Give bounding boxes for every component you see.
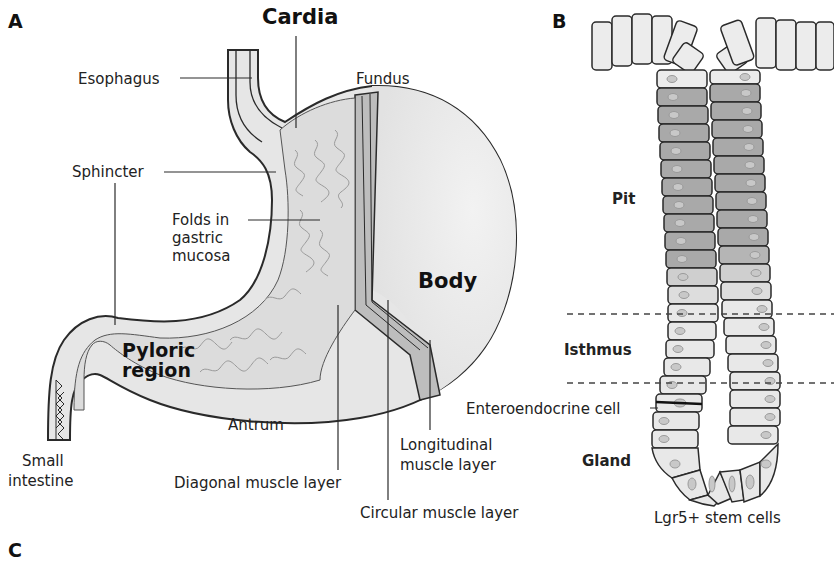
panel-label-c: C — [8, 539, 22, 561]
label-small-intestine-line1: Small — [22, 452, 64, 470]
label-stem-cells: Lgr5+ stem cells — [654, 509, 781, 527]
label-body: Body — [418, 272, 477, 290]
label-folds-line2: gastric — [172, 229, 223, 247]
label-pit: Pit — [612, 190, 635, 208]
panel-label-b: B — [552, 10, 566, 32]
label-isthmus: Isthmus — [564, 341, 632, 359]
label-cardia: Cardia — [262, 8, 338, 26]
label-longitudinal-line2: muscle layer — [400, 456, 496, 474]
label-folds-line3: mucosa — [172, 247, 231, 265]
panel-label-a: A — [8, 10, 23, 32]
surface-cells — [592, 14, 834, 75]
label-gland: Gland — [582, 452, 631, 470]
label-longitudinal-line1: Longitudinal — [400, 436, 492, 454]
label-sphincter: Sphincter — [72, 163, 144, 181]
label-small-intestine-line2: intestine — [8, 472, 73, 490]
label-circular-muscle: Circular muscle layer — [360, 504, 519, 522]
stomach-illustration — [48, 50, 516, 440]
label-antrum: Antrum — [228, 416, 284, 434]
label-pyloric-line2: region — [122, 360, 191, 380]
gastric-gland-illustration — [592, 14, 834, 506]
label-diagonal-muscle: Diagonal muscle layer — [174, 474, 341, 492]
label-fundus: Fundus — [356, 70, 410, 88]
label-folds-line1: Folds in — [172, 211, 229, 229]
label-pyloric-line1: Pyloric — [122, 340, 195, 360]
pit-cells-left — [657, 70, 718, 304]
label-enteroendocrine-cell: Enteroendocrine cell — [466, 400, 620, 418]
label-esophagus: Esophagus — [78, 70, 160, 88]
pit-cells-right — [710, 70, 771, 300]
